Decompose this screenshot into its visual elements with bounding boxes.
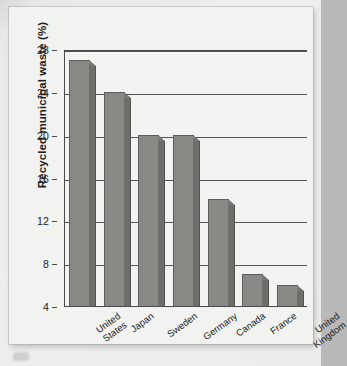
y-axis-tick-label: 12: [37, 215, 49, 227]
y-axis-tick: [52, 264, 57, 265]
gridline: [65, 94, 307, 95]
bar: [242, 274, 263, 306]
plot-area: [64, 50, 307, 307]
y-axis-tick-label: 16: [37, 173, 49, 185]
x-axis-label: Canada: [235, 311, 268, 339]
chart-card: Recycled municipal waste (%) 28242016128…: [9, 7, 313, 344]
gridline: [65, 51, 307, 52]
y-axis-tick-label: 4: [43, 301, 49, 313]
y-axis-tick: [52, 136, 57, 137]
y-axis-tick-label: 8: [43, 258, 49, 270]
y-axis-tick: [52, 307, 57, 308]
x-axis-label: Sweden: [165, 311, 199, 340]
y-axis-tick-label: 28: [37, 44, 49, 56]
bar: [138, 135, 159, 306]
bar: [69, 60, 90, 306]
x-axis-label: Germany: [201, 311, 239, 342]
y-axis-tick: [52, 221, 57, 222]
x-axis-label: UnitedStates: [95, 311, 130, 344]
y-axis-tick-label: 20: [37, 130, 49, 142]
page-smudge: [13, 352, 29, 361]
y-axis-tick: [52, 93, 57, 94]
y-axis-tick-labels: 282420161284: [31, 50, 57, 307]
y-axis-tick: [52, 50, 57, 51]
bar: [277, 285, 298, 306]
x-axis-label: France: [269, 311, 299, 337]
y-axis-tick-label: 24: [37, 87, 49, 99]
y-axis-tick: [52, 179, 57, 180]
bar: [104, 92, 125, 306]
bar: [173, 135, 194, 306]
x-axis-category-labels: UnitedStatesJapanSwedenGermanyCanadaFran…: [64, 308, 307, 366]
x-axis-label: Japan: [129, 311, 156, 335]
x-axis-label: UnitedKingdom: [305, 311, 347, 350]
bar: [208, 199, 229, 306]
